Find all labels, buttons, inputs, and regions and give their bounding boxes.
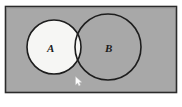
venn-diagram-figure: A B [0, 0, 182, 107]
set-b-label: B [104, 42, 112, 54]
universal-set-top-shadow [6, 7, 176, 9]
venn-diagram-canvas: A B [0, 0, 182, 107]
set-a-label: A [46, 42, 54, 54]
